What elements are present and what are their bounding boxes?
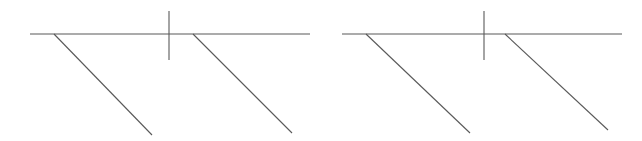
diagram-background [0, 0, 642, 141]
line-diagram [0, 0, 642, 141]
diagram-canvas [0, 0, 642, 141]
